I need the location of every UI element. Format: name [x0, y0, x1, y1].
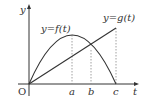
line-g	[29, 28, 116, 84]
tick-c-label: c	[113, 86, 119, 97]
curve-f-label: y=f(t)	[40, 23, 71, 34]
curve-f	[29, 35, 116, 84]
line-g-label: y=g(t)	[102, 12, 135, 23]
origin-label: O	[18, 86, 26, 97]
tick-b-label: b	[88, 86, 94, 97]
tick-a-label: a	[69, 86, 75, 97]
t-axis-label: t	[133, 86, 138, 97]
y-axis-arrow-icon	[27, 4, 31, 9]
function-graph: y t O y=f(t) y=g(t) a b c	[0, 0, 143, 104]
y-axis-label: y	[19, 4, 26, 15]
